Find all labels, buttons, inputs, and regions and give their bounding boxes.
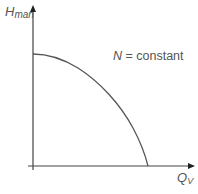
y-axis-label: Hman [5, 4, 34, 19]
x-axis-label: QV [177, 170, 193, 185]
x-axis-label-main: Q [177, 170, 187, 185]
diagram-canvas [0, 0, 198, 194]
y-axis-label-main: H [5, 4, 14, 19]
y-axis-label-sub: man [14, 9, 33, 20]
x-axis-arrow-icon [188, 163, 195, 169]
x-axis-label-sub: V [187, 176, 193, 186]
pump-curve [33, 54, 148, 166]
annotation-variable: N [113, 49, 122, 63]
curve-annotation: N = constant [113, 49, 184, 63]
annotation-text: = constant [122, 49, 184, 63]
